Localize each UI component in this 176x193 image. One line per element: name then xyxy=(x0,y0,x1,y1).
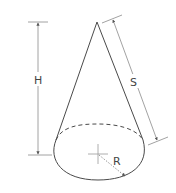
base-back-edge xyxy=(56,124,143,140)
cone-shape xyxy=(54,22,145,180)
cone-diagram: R H S xyxy=(0,0,176,193)
slant-top-tick xyxy=(102,15,122,23)
height-label: H xyxy=(34,74,42,87)
slant-bottom-tick xyxy=(148,137,168,145)
center-crosshair-icon xyxy=(88,144,108,164)
radius-label: R xyxy=(113,155,121,168)
radius-line xyxy=(99,155,125,176)
base-front-edge xyxy=(54,140,145,180)
slant-label: S xyxy=(130,76,137,89)
cone-left-slant xyxy=(56,22,97,140)
height-dimension xyxy=(28,22,52,155)
